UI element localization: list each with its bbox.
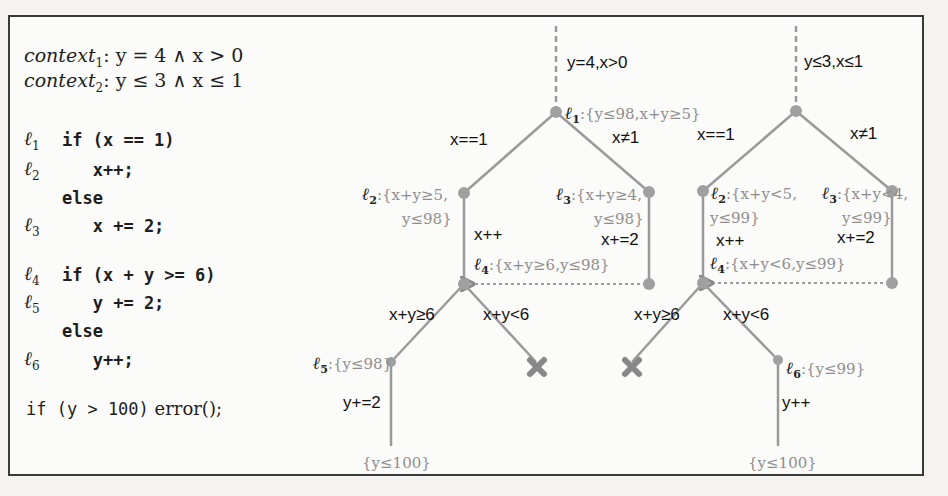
node-l3-exit <box>643 278 655 290</box>
edge-label-xplus2: x+=2 <box>601 230 639 249</box>
edge-true <box>703 111 796 191</box>
l4-label: ℓ4:{x+y≥6,y≤98} <box>474 254 610 277</box>
node-l3 <box>643 186 655 198</box>
edge-label-ypp: y++ <box>782 393 810 412</box>
final-invariant: {y≤100} <box>362 454 431 472</box>
edge-label-xpp: x++ <box>474 225 502 244</box>
l4-label: ℓ4:{x+y<6,y≤99} <box>710 253 846 276</box>
edge-label-xplus2: x+=2 <box>837 228 875 247</box>
node-l4 <box>697 277 709 289</box>
edge-false <box>796 111 892 191</box>
edge-label-true: x==1 <box>450 130 488 149</box>
edge-label-ge6: x+y≥6 <box>389 305 435 324</box>
l3-label: ℓ3:{x+y<4, <box>822 183 908 206</box>
edge-false <box>556 112 649 192</box>
l2-label: ℓ2:{x+y≥5, <box>362 184 448 207</box>
edge-true <box>464 112 556 193</box>
edge-label-lt6: x+y<6 <box>723 305 769 324</box>
l1-label: ℓ1:{y≤98,x+y≥5} <box>565 103 701 126</box>
l2-label: ℓ2:{x+y<5, <box>711 183 797 206</box>
l6-label: ℓ6:{y≤99} <box>786 358 865 381</box>
symbolic-execution-trees: y=4,x>0 ℓ1:{y≤98,x+y≥5} x==1 x≠1 ℓ2:{x+y… <box>0 0 948 496</box>
tree-context-1: y=4,x>0 ℓ1:{y≤98,x+y≥5} x==1 x≠1 ℓ2:{x+y… <box>313 26 701 472</box>
l5-label: ℓ5:{y≤98} <box>313 353 392 376</box>
edge-label-lt6: x+y<6 <box>483 305 529 324</box>
final-invariant: {y≤100} <box>748 454 817 472</box>
l3-invariant-2: y≤98} <box>593 210 644 228</box>
node-l1 <box>790 105 802 117</box>
l2-invariant-2: y≤98} <box>401 210 452 228</box>
edge-label-false: x≠1 <box>612 128 639 147</box>
tree-context-2: y≤3,x≤1 x==1 x≠1 ℓ2:{x+y<5, y≤99} ℓ3:{x+… <box>625 26 908 472</box>
edge-label-true: x==1 <box>697 125 735 144</box>
edge-label-yplus2: y+=2 <box>343 393 381 412</box>
entry-condition: y≤3,x≤1 <box>804 52 863 71</box>
node-l2 <box>458 187 470 199</box>
node-l1 <box>550 106 562 118</box>
node-l3-exit <box>886 277 898 289</box>
node-l6 <box>773 355 783 365</box>
edge-label-xpp: x++ <box>716 231 744 250</box>
node-l4 <box>458 278 470 290</box>
entry-condition: y=4,x>0 <box>567 53 628 72</box>
node-l2 <box>697 185 709 197</box>
cross-mark-icon <box>625 360 639 374</box>
l2-invariant-2: y≤99} <box>709 209 760 227</box>
cross-mark-icon <box>530 360 544 374</box>
edge-label-false: x≠1 <box>850 124 877 143</box>
edge-label-ge6: x+y≥6 <box>634 305 680 324</box>
l3-invariant-2: y≤99} <box>841 209 892 227</box>
l3-label: ℓ3:{x+y≥4, <box>556 184 642 207</box>
